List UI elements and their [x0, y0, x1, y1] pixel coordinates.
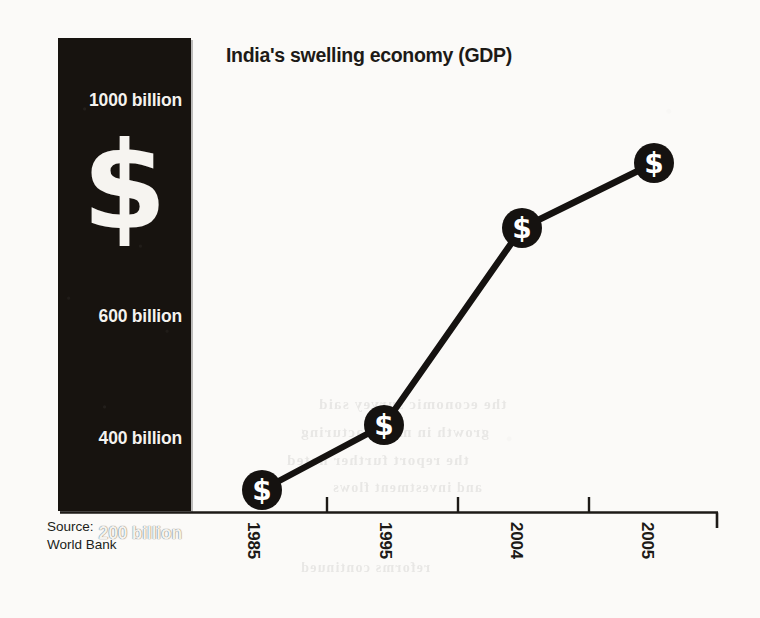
data-point-marker: $	[364, 405, 404, 445]
dollar-sign-icon: $	[512, 212, 531, 245]
dollar-sign-icon: $	[374, 409, 393, 442]
x-axis-tick-label: 2004	[506, 522, 526, 559]
source-value: World Bank	[47, 536, 117, 554]
dollar-sign-icon: $	[644, 147, 663, 180]
source-note: Source: World Bank	[47, 518, 117, 554]
source-label: Source:	[47, 518, 117, 536]
dollar-sign-icon: $	[252, 474, 271, 507]
x-axis-tick-label: 1985	[243, 522, 263, 559]
gdp-trend-line	[262, 163, 654, 490]
x-axis-tick-label: 2005	[637, 522, 657, 559]
x-axis-tick-marks	[327, 497, 589, 512]
data-point-marker: $	[634, 143, 674, 183]
data-point-marker: $	[242, 470, 282, 510]
data-point-marker: $	[502, 208, 542, 248]
data-point-markers: $$$$	[242, 143, 674, 510]
x-axis-tick-label: 1995	[375, 522, 395, 559]
infographic-chart: the economic survey saidgrowth in manufa…	[0, 0, 760, 618]
